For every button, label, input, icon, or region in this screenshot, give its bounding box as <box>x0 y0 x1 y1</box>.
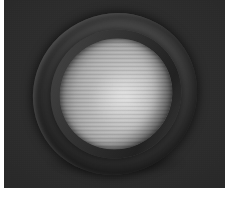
hemisphere-shell-object <box>4 0 225 188</box>
page-margin-left <box>0 0 4 197</box>
render-viewport <box>0 0 229 197</box>
render-canvas <box>4 0 225 188</box>
page-margin-bottom <box>0 188 229 197</box>
page-margin-right <box>225 0 229 197</box>
